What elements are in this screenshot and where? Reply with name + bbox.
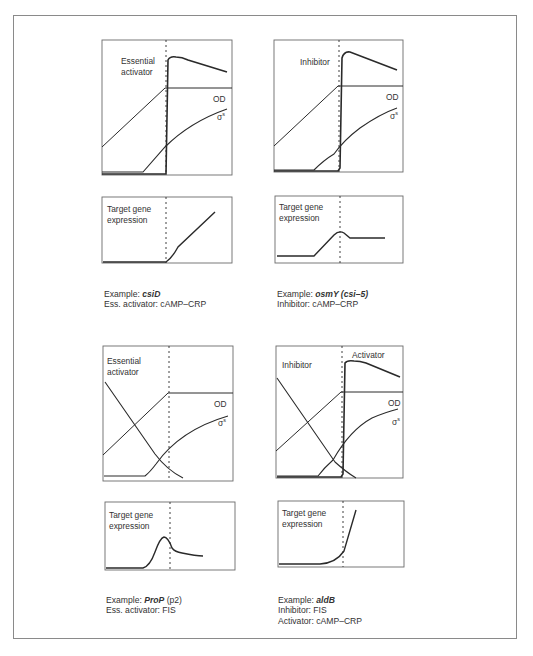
tl-sigma-label: σs [217, 111, 225, 122]
gene-name: aldB [316, 595, 335, 605]
caption-bottom-left: Example: ProP (p2) Ess. activator: FIS [106, 595, 182, 616]
gene-name: ProP [144, 595, 164, 605]
br-activator-label: Activator [352, 350, 385, 360]
bl-target-label-1: Target gene [109, 510, 154, 520]
bl-activator-label-2: activator [107, 367, 139, 377]
tl-od-label: OD [213, 94, 226, 104]
tr-target-label-1: Target gene [279, 202, 324, 212]
tl-target-label-2: expression [107, 215, 148, 225]
br-target-label-1: Target gene [282, 508, 327, 518]
tl-target-label-1: Target gene [107, 204, 152, 214]
tr-od-label: OD [386, 92, 399, 102]
tr-sigma-label: σs [390, 110, 398, 121]
tr-target-label-2: expression [279, 213, 320, 223]
gene-name: osmY (csi–5) [315, 289, 368, 299]
caption-top-left: Example: csiD Ess. activator: cAMP–CRP [104, 289, 206, 310]
br-sigma-label: σs [392, 416, 400, 427]
tl-activator-label-1: Essential [121, 56, 155, 66]
caption-bottom-right: Example: aldB Inhibitor: FIS Activator: … [278, 595, 362, 626]
gene-name: csiD [142, 289, 160, 299]
caption-top-right: Example: osmY (csi–5) Inhibitor: cAMP–CR… [277, 289, 368, 310]
tr-inhibitor-label: Inhibitor [300, 57, 330, 67]
bl-target-label-2: expression [109, 521, 150, 531]
regulation-diagram: Essential activator OD σs Target gene ex… [0, 0, 533, 656]
br-od-label: OD [388, 398, 401, 408]
bl-od-label: OD [214, 399, 227, 409]
br-inhibitor-label: Inhibitor [282, 360, 312, 370]
tl-activator-label-2: activator [121, 67, 153, 77]
panel-top-right-top-chart [274, 40, 403, 172]
br-target-label-2: expression [282, 519, 323, 529]
bl-activator-label-1: Essential [107, 356, 141, 366]
bl-sigma-label: σs [218, 417, 226, 428]
